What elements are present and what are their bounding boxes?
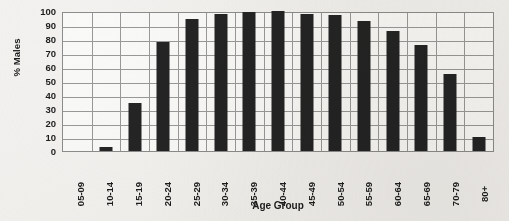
x-tick-slot: 35-39	[235, 154, 264, 198]
x-tick-slot: 60-64	[379, 154, 408, 198]
bar	[300, 14, 313, 151]
bar-slot	[464, 13, 493, 151]
y-axis-title: % Males	[11, 18, 22, 98]
bar-slot	[235, 13, 264, 151]
y-tick-label: 20	[26, 119, 56, 129]
x-tick-slot: 20-24	[148, 154, 177, 198]
bar-slot	[350, 13, 379, 151]
bar-slot	[407, 13, 436, 151]
y-tick-label: 70	[26, 49, 56, 59]
y-axis-tick-labels: 0102030405060708090100	[26, 12, 56, 152]
bar	[358, 21, 371, 151]
bar-slot	[149, 13, 178, 151]
x-axis-tick-labels: 05-0910-1415-1920-2425-2930-3435-3940-44…	[62, 154, 494, 198]
x-axis-title: Age Group	[62, 200, 494, 211]
y-tick-label: 10	[26, 133, 56, 143]
bar-slot	[120, 13, 149, 151]
bar-series	[63, 13, 493, 151]
y-tick-label: 90	[26, 21, 56, 31]
bar	[157, 42, 170, 151]
x-tick-slot: 05-09	[62, 154, 91, 198]
x-tick-slot: 65-69	[408, 154, 437, 198]
bar-slot	[292, 13, 321, 151]
bar	[329, 15, 342, 151]
x-tick-slot: 25-29	[177, 154, 206, 198]
x-tick-slot: 15-19	[120, 154, 149, 198]
y-tick-label: 0	[26, 147, 56, 157]
y-tick-label: 100	[26, 7, 56, 17]
bar	[272, 11, 285, 151]
plot-area	[62, 12, 494, 152]
bar-slot	[378, 13, 407, 151]
x-tick-slot: 80+	[465, 154, 494, 198]
bar	[100, 147, 113, 151]
bar	[472, 137, 485, 151]
y-tick-label: 30	[26, 105, 56, 115]
x-tick-slot: 30-34	[206, 154, 235, 198]
bar-slot	[206, 13, 235, 151]
bar-slot	[178, 13, 207, 151]
bar	[243, 12, 256, 151]
x-tick-slot: 45-49	[292, 154, 321, 198]
bar-slot	[436, 13, 465, 151]
y-tick-label: 80	[26, 35, 56, 45]
bar-chart: % Males 0102030405060708090100 05-0910-1…	[0, 0, 509, 221]
x-tick-slot: 55-59	[350, 154, 379, 198]
x-tick-slot: 50-54	[321, 154, 350, 198]
bar	[214, 14, 227, 151]
y-tick-label: 40	[26, 91, 56, 101]
y-tick-label: 60	[26, 63, 56, 73]
bar	[386, 31, 399, 151]
bar-slot	[92, 13, 121, 151]
x-tick-slot: 70-79	[436, 154, 465, 198]
bar	[186, 19, 199, 151]
y-tick-label: 50	[26, 77, 56, 87]
bar-slot	[264, 13, 293, 151]
x-tick-slot: 10-14	[91, 154, 120, 198]
bar	[444, 74, 457, 151]
bar-slot	[321, 13, 350, 151]
bar-slot	[63, 13, 92, 151]
bar	[415, 45, 428, 151]
x-tick-slot: 40-44	[264, 154, 293, 198]
bar	[128, 103, 141, 151]
